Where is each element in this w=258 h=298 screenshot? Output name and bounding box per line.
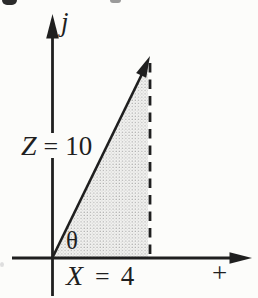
phasor-diagram: j Z = 10 θ X = 4 + xyxy=(0,0,258,298)
scan-artifact xyxy=(0,262,4,267)
vector-symbol: Z xyxy=(21,132,37,160)
vector-magnitude-label: Z = 10 xyxy=(21,132,92,160)
x-axis-polarity-label: + xyxy=(212,260,227,287)
y-axis-label: j xyxy=(61,9,69,36)
vector-equals-sign: = xyxy=(44,134,59,160)
x-component-symbol: X xyxy=(66,262,83,290)
y-axis-arrowhead-icon xyxy=(46,14,59,39)
x-axis-arrowhead-icon xyxy=(230,252,253,264)
x-component-value: 4 xyxy=(121,263,135,290)
x-component-label: X = 4 xyxy=(66,262,134,290)
angle-label: θ xyxy=(66,228,78,253)
scan-artifact xyxy=(110,0,121,3)
x-component-equals-sign: = xyxy=(95,264,110,290)
vector-value: 10 xyxy=(65,133,92,160)
